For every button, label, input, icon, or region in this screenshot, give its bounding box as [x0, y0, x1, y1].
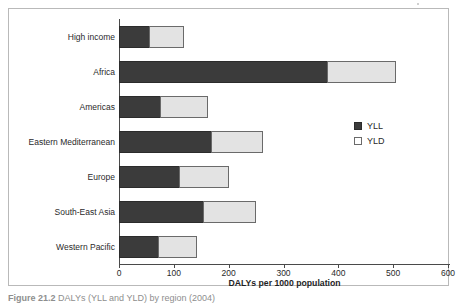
category-label: Europe: [11, 172, 115, 182]
bar-segment-yld: [160, 96, 208, 118]
category-label: High income: [11, 32, 115, 42]
x-tick-label: 100: [167, 268, 181, 278]
category-label: Africa: [11, 67, 115, 77]
x-axis-title: DALYs per 1000 population: [119, 278, 450, 288]
bar-segment-yll: [119, 61, 327, 83]
legend-label-yll: YLL: [367, 121, 383, 131]
category-label: Eastern Mediterranean: [11, 137, 115, 147]
bar-segment-yld: [327, 61, 396, 83]
bar-segment-yll: [119, 96, 160, 118]
scan-artifact-speck: [417, 3, 419, 5]
bar-segment-yld: [211, 131, 263, 153]
legend-swatch-yll-icon: [354, 122, 362, 130]
category-label: Western Pacific: [11, 242, 115, 252]
plot-area: [119, 19, 448, 264]
legend-item-yll: YLL: [354, 119, 385, 132]
category-label: South-East Asia: [11, 207, 115, 217]
x-tick-label: 0: [117, 268, 122, 278]
bar-segment-yll: [119, 26, 149, 48]
legend-swatch-yld-icon: [354, 137, 362, 145]
x-tick-label: 200: [222, 268, 236, 278]
bar-segment-yld: [203, 201, 256, 223]
legend-label-yld: YLD: [367, 136, 385, 146]
chart-frame: High incomeAfricaAmericasEastern Mediter…: [8, 8, 449, 286]
bar-segment-yll: [119, 236, 158, 258]
figure-caption-number: Figure 21.2: [8, 293, 56, 303]
bar-row: [119, 236, 197, 258]
bar-row: [119, 61, 396, 83]
category-label: Americas: [11, 102, 115, 112]
legend: YLL YLD: [354, 119, 385, 149]
bar-row: [119, 131, 263, 153]
bar-segment-yld: [149, 26, 184, 48]
bar-row: [119, 201, 256, 223]
figure: High incomeAfricaAmericasEastern Mediter…: [0, 0, 458, 307]
bar-segment-yll: [119, 131, 211, 153]
bar-segment-yll: [119, 201, 203, 223]
x-tick-label: 400: [331, 268, 345, 278]
bar-segment-yll: [119, 166, 179, 188]
bar-segment-yld: [179, 166, 228, 188]
bar-segment-yld: [158, 236, 197, 258]
x-tick-label: 300: [276, 268, 290, 278]
legend-item-yld: YLD: [354, 134, 385, 147]
figure-caption: Figure 21.2 DALYs (YLL and YLD) by regio…: [8, 293, 448, 303]
figure-caption-text: DALYs (YLL and YLD) by region (2004): [58, 293, 215, 303]
bar-row: [119, 166, 229, 188]
x-tick-label: 500: [386, 268, 400, 278]
category-axis-labels: High incomeAfricaAmericasEastern Mediter…: [9, 19, 115, 265]
bar-row: [119, 96, 208, 118]
x-tick-label: 600: [441, 268, 455, 278]
x-axis-ticks: 0100200300400500600: [119, 265, 450, 279]
bar-row: [119, 26, 184, 48]
